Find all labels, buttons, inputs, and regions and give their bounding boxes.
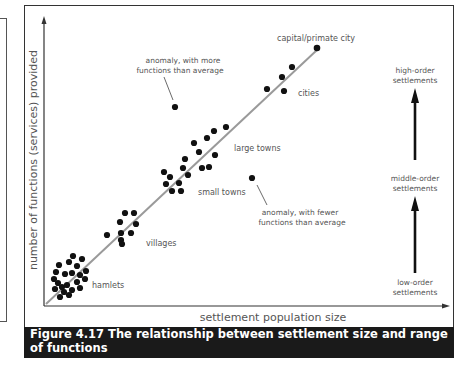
- point-hamlet: [70, 253, 76, 259]
- point-hamlet: [69, 270, 75, 276]
- point-hamlet: [56, 262, 62, 268]
- label-high-order-line2: settlements: [393, 76, 438, 85]
- point-small-town: [199, 165, 205, 171]
- point-village: [122, 210, 128, 216]
- point-village: [131, 210, 137, 216]
- point-small-town: [178, 188, 184, 194]
- point-large-town: [223, 124, 229, 130]
- middle-order-arrow-icon: [411, 196, 419, 211]
- point-hamlet: [74, 279, 80, 285]
- point-anomaly-fewer: [249, 175, 255, 181]
- point-hamlet: [82, 276, 88, 282]
- point-hamlet: [77, 272, 83, 278]
- x-axis-label: settlement population size: [200, 311, 347, 324]
- point-large-town: [211, 128, 217, 134]
- label-middle-order-line1: middle-order: [391, 174, 440, 183]
- label-anomaly-fewer-line1: anomaly, with fewer: [262, 208, 339, 217]
- point-large-town: [204, 135, 210, 141]
- point-small-town: [163, 181, 169, 187]
- label-middle-order-line2: settlements: [393, 184, 438, 193]
- figure-caption: Figure 4.17The relationship between sett…: [24, 327, 454, 358]
- point-capital: [314, 45, 321, 52]
- high-order-arrow-icon: [411, 88, 419, 103]
- y-axis-label: number of functions (services) provided: [27, 50, 40, 270]
- point-village: [133, 221, 139, 227]
- label-anomaly-more-line2: functions than average: [136, 66, 223, 75]
- point-village: [128, 230, 134, 236]
- label-low-order-line1: low-order: [397, 278, 434, 287]
- trend-line: [46, 50, 317, 304]
- figure-number: Figure 4.17: [30, 327, 104, 341]
- point-small-town: [161, 169, 167, 175]
- label-small-towns: small towns: [198, 188, 246, 197]
- label-capital: capital/primate city: [277, 34, 355, 43]
- point-hamlet: [74, 263, 80, 269]
- label-cities: cities: [298, 89, 319, 98]
- y-axis-arrow-icon: [42, 16, 47, 24]
- point-hamlet: [53, 269, 59, 275]
- point-village: [118, 230, 124, 236]
- point-small-town: [185, 172, 191, 178]
- point-small-town: [176, 180, 182, 186]
- scatter-chart: number of functions (services) provided …: [0, 0, 473, 374]
- point-small-town: [180, 165, 186, 171]
- label-large-towns: large towns: [234, 144, 281, 153]
- point-large-town: [212, 152, 218, 158]
- point-hamlet: [66, 259, 72, 265]
- x-axis-arrow-icon: [442, 304, 450, 309]
- point-large-town: [191, 140, 197, 146]
- point-small-town: [206, 164, 212, 170]
- point-hamlet: [62, 271, 68, 277]
- point-city: [281, 88, 287, 94]
- point-hamlet: [57, 294, 63, 300]
- point-anomaly-more: [172, 104, 178, 110]
- point-hamlet: [83, 268, 89, 274]
- point-village: [117, 219, 123, 225]
- point-large-town: [196, 149, 202, 155]
- label-anomaly-fewer-line2: functions than average: [258, 218, 345, 227]
- point-village: [104, 232, 110, 238]
- point-small-town: [169, 188, 175, 194]
- point-village: [119, 241, 125, 247]
- label-high-order-line1: high-order: [395, 66, 435, 75]
- point-hamlet: [59, 284, 65, 290]
- leader-anomaly-more: [164, 77, 173, 100]
- label-hamlets: hamlets: [92, 281, 124, 290]
- point-hamlet: [77, 285, 83, 291]
- label-anomaly-more-line1: anomaly, with more: [146, 56, 221, 65]
- point-hamlet: [79, 256, 85, 262]
- point-hamlet: [66, 292, 72, 298]
- point-city: [279, 74, 285, 80]
- point-city: [289, 64, 295, 70]
- point-small-town: [182, 156, 188, 162]
- label-low-order-line2: settlements: [393, 288, 438, 297]
- label-villages: villages: [146, 239, 176, 248]
- point-small-town: [167, 174, 173, 180]
- leader-anomaly-fewer: [257, 185, 267, 205]
- point-hamlet: [52, 286, 58, 292]
- point-city: [264, 86, 270, 92]
